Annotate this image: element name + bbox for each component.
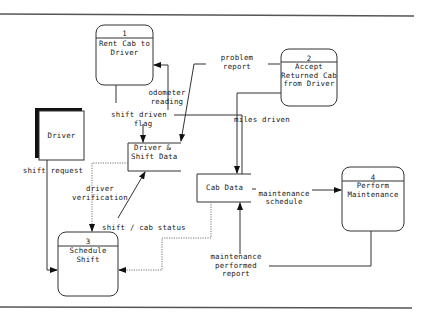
svg-text:shift driven: shift driven	[111, 110, 167, 119]
process-accept-returned-cab[interactable]: 2 Accept Returned Cab from Driver	[281, 49, 337, 106]
process-label: Rent Cab to	[99, 39, 150, 48]
process-label: Accept	[295, 62, 323, 71]
entity-label: Driver	[48, 131, 76, 140]
svg-text:shift request: shift request	[23, 166, 83, 175]
process-rent-cab-to-driver[interactable]: 1 Rent Cab to Driver	[96, 25, 153, 85]
process-label: from Driver	[283, 79, 334, 88]
process-number: 3	[86, 237, 91, 246]
flow-cab-data-to-schedule	[126, 202, 211, 270]
flow-odometer-reading[interactable]: odometer reading	[148, 65, 186, 110]
process-label: Driver	[111, 48, 139, 57]
external-entity-driver[interactable]: Driver	[35, 108, 84, 160]
data-flow-diagram: 1 Rent Cab to Driver 2 Accept Returned C…	[0, 0, 421, 314]
data-store-driver-shift-data[interactable]: Driver & Shift Data	[128, 143, 181, 171]
svg-text:maintenance: maintenance	[210, 252, 261, 261]
process-label: Schedule	[69, 246, 107, 255]
svg-text:schedule: schedule	[265, 197, 303, 206]
process-label: Perform	[357, 181, 390, 190]
top-rule	[0, 14, 414, 16]
svg-text:driver: driver	[86, 184, 114, 193]
store-label: Cab Data	[206, 183, 243, 192]
svg-text:odometer: odometer	[148, 88, 186, 97]
flow-shift-cab-status[interactable]: shift / cab status	[102, 172, 186, 232]
svg-text:problem: problem	[221, 53, 254, 62]
svg-text:miles driven: miles driven	[234, 115, 290, 124]
process-number: 1	[122, 29, 127, 38]
store-label: Driver &	[134, 143, 172, 152]
data-store-cab-data[interactable]: Cab Data	[197, 174, 251, 202]
store-label: Shift Data	[131, 152, 178, 161]
svg-text:flag: flag	[134, 119, 153, 128]
process-schedule-shift[interactable]: 3 Schedule Shift	[58, 232, 118, 296]
flow-problem-report[interactable]: problem report	[181, 53, 280, 141]
bottom-rule	[0, 307, 412, 308]
svg-text:report: report	[222, 269, 250, 278]
process-label: Maintenance	[347, 190, 398, 199]
svg-text:report: report	[223, 62, 251, 71]
process-perform-maintenance[interactable]: 4 Perform Maintenance	[342, 167, 404, 231]
flow-maintenance-schedule[interactable]: maintenance schedule	[252, 189, 341, 206]
svg-text:reading: reading	[151, 97, 184, 106]
process-label: Shift	[76, 255, 99, 264]
svg-text:shift / cab status: shift / cab status	[102, 223, 186, 232]
svg-text:verification: verification	[72, 193, 128, 202]
